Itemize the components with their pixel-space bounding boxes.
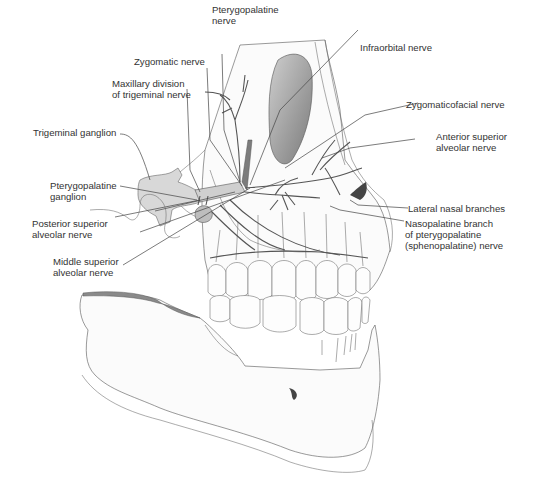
label-line: Trigeminal ganglion [33, 127, 116, 138]
trigeminal-ganglion-shape [138, 168, 200, 226]
label-infraorbital-nerve: Infraorbital nerve [360, 42, 432, 53]
label-line: alveolar nerve [436, 142, 507, 153]
label-lateral-nasal-branches: Lateral nasal branches [408, 203, 505, 214]
label-nasopalatine-branch: Nasopalatine branch of pterygopalatine (… [405, 218, 503, 251]
label-line: Lateral nasal branches [408, 203, 505, 214]
label-trigeminal-ganglion: Trigeminal ganglion [33, 127, 116, 138]
label-line: (sphenopalatine) nerve [405, 240, 503, 251]
label-maxillary-division: Maxillary division of trigeminal nerve [112, 78, 191, 100]
label-line: alveolar nerve [32, 229, 108, 240]
label-line: Infraorbital nerve [360, 42, 432, 53]
anatomy-diagram: Pterygopalatine nerve Zygomatic nerve Ma… [0, 0, 537, 486]
label-line: Zygomaticofacial nerve [406, 99, 505, 110]
label-zygomaticofacial-nerve: Zygomaticofacial nerve [406, 99, 505, 110]
label-line: Posterior superior [32, 218, 108, 229]
label-zygomatic-nerve: Zygomatic nerve [134, 56, 205, 67]
label-anterior-superior-alveolar: Anterior superior alveolar nerve [436, 131, 507, 153]
label-pterygopalatine-nerve: Pterygopalatine nerve [212, 4, 279, 26]
label-posterior-superior-alveolar: Posterior superior alveolar nerve [32, 218, 108, 240]
label-line: Zygomatic nerve [134, 56, 205, 67]
label-pterygopalatine-ganglion: Pterygopalatine ganglion [50, 180, 117, 202]
label-line: of trigeminal nerve [112, 89, 191, 100]
label-middle-superior-alveolar: Middle superior alveolar nerve [53, 256, 119, 278]
label-line: Nasopalatine branch [405, 218, 503, 229]
lower-teeth [210, 296, 370, 335]
label-line: Anterior superior [436, 131, 507, 142]
label-line: Pterygopalatine [50, 180, 117, 191]
label-line: Maxillary division [112, 78, 191, 89]
label-line: Pterygopalatine [212, 4, 279, 15]
label-line: Middle superior [53, 256, 119, 267]
label-line: alveolar nerve [53, 267, 119, 278]
label-line: of pterygopalatine [405, 229, 503, 240]
label-line: nerve [212, 15, 279, 26]
label-line: ganglion [50, 191, 117, 202]
incisor-roots [322, 333, 356, 362]
